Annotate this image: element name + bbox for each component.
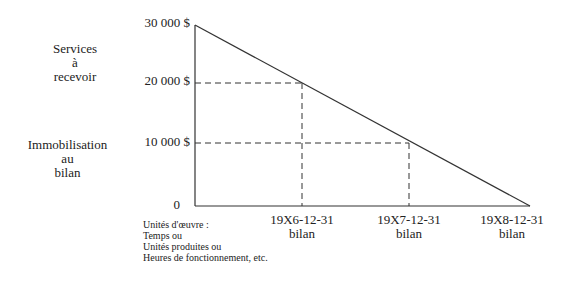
x-tick-date: 19X8-12-31 <box>462 213 562 227</box>
units-note-line: Heures de fonctionnement, etc. <box>143 252 268 263</box>
units-note-line: Unités produites ou <box>143 241 268 252</box>
x-tick-19x7: 19X7-12-31 bilan <box>359 213 459 241</box>
chart-plot <box>0 0 567 287</box>
x-tick-sub: bilan <box>359 227 459 241</box>
x-tick-sub: bilan <box>462 227 562 241</box>
units-note-line: Unités d'œuvre : <box>143 219 268 230</box>
x-tick-date: 19X7-12-31 <box>359 213 459 227</box>
x-tick-19x8: 19X8-12-31 bilan <box>462 213 562 241</box>
units-note-line: Temps ou <box>143 230 268 241</box>
units-note: Unités d'œuvre : Temps ou Unités produit… <box>143 219 268 263</box>
depreciation-line <box>195 25 530 206</box>
